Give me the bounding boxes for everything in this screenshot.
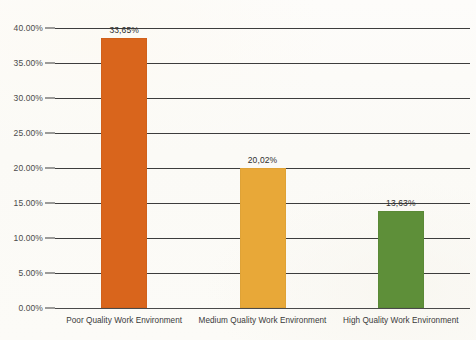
y-axis-tick-label: 15.00% (0, 198, 43, 208)
y-axis-tick-label: 0.00% (0, 303, 43, 313)
x-axis-category-label: High Quality Work Environment (343, 316, 459, 325)
bar-rect (378, 211, 424, 308)
y-axis-tick-mark (45, 133, 55, 134)
bar-chart: 40.00%35.00%30.00%25.00%20.00%15.00%10.0… (0, 0, 476, 340)
plot-area: 33,65%20,02%13,63% (55, 28, 470, 308)
y-axis-tick-mark (45, 308, 55, 309)
y-axis-tick-label: 30.00% (0, 93, 43, 103)
bar: 13,63% (378, 211, 424, 308)
y-axis-tick-label: 40.00% (0, 23, 43, 33)
bar-value-label: 33,65% (109, 25, 138, 35)
y-axis-tick-mark (45, 203, 55, 204)
y-axis-tick-mark (45, 273, 55, 274)
y-axis-tick-mark (45, 168, 55, 169)
bar-value-label: 13,63% (386, 198, 415, 208)
bar-rect (101, 38, 147, 308)
y-axis-tick-label: 35.00% (0, 58, 43, 68)
bar-value-label: 20,02% (248, 155, 277, 165)
y-axis-tick-mark (45, 98, 55, 99)
bar-rect (240, 168, 286, 308)
y-axis-tick-mark (45, 63, 55, 64)
y-axis-tick-label: 5.00% (0, 268, 43, 278)
y-axis-tick-label: 10.00% (0, 233, 43, 243)
bar: 20,02% (240, 168, 286, 308)
y-axis-tick-label: 25.00% (0, 128, 43, 138)
gridline (55, 308, 470, 309)
y-axis-tick-mark (45, 28, 55, 29)
x-axis-category-label: Poor Quality Work Environment (66, 316, 182, 325)
y-axis-tick-label: 20.00% (0, 163, 43, 173)
x-axis-category-label: Medium Quality Work Environment (199, 316, 327, 325)
y-axis-tick-mark (45, 238, 55, 239)
bar: 33,65% (101, 38, 147, 308)
